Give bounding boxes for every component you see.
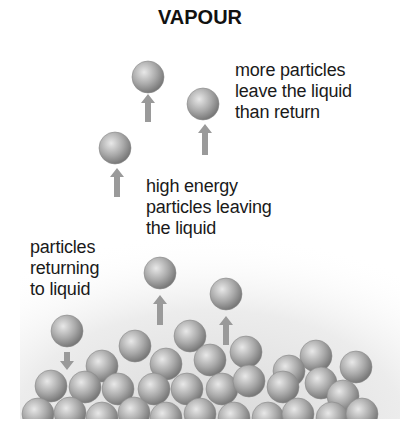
liquid-particle	[194, 344, 226, 376]
returning-particle	[51, 315, 83, 347]
bottom-edge	[0, 419, 400, 425]
leaving-particle	[144, 257, 176, 289]
vapour-title: VAPOUR	[0, 6, 400, 29]
leaving-particle	[210, 278, 242, 310]
vapour-particle	[132, 61, 164, 93]
up-arrow-icon	[110, 168, 124, 197]
label-high-energy: high energy particles leaving the liquid	[146, 176, 272, 239]
up-arrow-icon	[141, 94, 155, 122]
up-arrow-icon	[198, 124, 212, 155]
label-more-particles: more particles leave the liquid than ret…	[235, 60, 352, 123]
label-returning: particles returning to liquid	[30, 237, 99, 300]
liquid-particle	[233, 365, 265, 397]
liquid-particle	[35, 370, 67, 402]
liquid-particle	[340, 351, 372, 383]
vapour-particle	[99, 132, 131, 164]
liquid-particle	[119, 330, 151, 362]
vapour-particle	[187, 88, 219, 120]
liquid-particle	[230, 336, 262, 368]
